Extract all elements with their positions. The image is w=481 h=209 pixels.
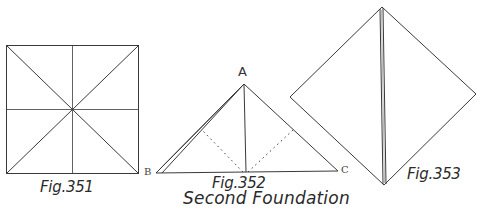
- fig351-square: [7, 46, 139, 174]
- fig351-caption: Fig.351: [40, 178, 94, 196]
- point-label-a: A: [238, 64, 247, 79]
- point-label-b: B: [144, 166, 151, 177]
- fig353-caption: Fig.353: [407, 165, 461, 183]
- point-label-c: C: [341, 164, 349, 175]
- subtitle: Second Foundation: [183, 188, 350, 208]
- fig352-triangle: [156, 84, 338, 173]
- fig353-diamond: [290, 7, 476, 185]
- diagram-canvas: A B C Fig.351 Fig.352 Fig.353 Second Fou…: [0, 0, 481, 209]
